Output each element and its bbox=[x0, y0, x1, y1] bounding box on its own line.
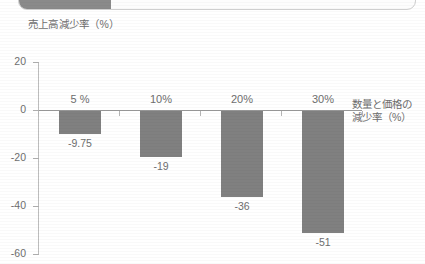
bar-value-label: -51 bbox=[282, 236, 364, 248]
bar-value-label: -36 bbox=[201, 200, 283, 212]
bar-chart: 売上高減少率（%） 数量と価格の 減少率（%） 200-20-40-60 5 %… bbox=[0, 0, 425, 264]
x-axis-tick-mark bbox=[281, 111, 282, 116]
y-axis-tick-mark bbox=[33, 158, 39, 159]
y-axis-title: 売上高減少率（%） bbox=[28, 16, 119, 31]
y-axis-tick-mark bbox=[33, 206, 39, 207]
x-axis-tick-mark bbox=[200, 111, 201, 116]
bar-value-label: -9.75 bbox=[39, 137, 121, 149]
x-axis-tick-mark bbox=[362, 111, 363, 116]
y-axis-tick-mark bbox=[33, 62, 39, 63]
bar-category-label: 20% bbox=[201, 93, 283, 105]
bar-category-label: 30% bbox=[282, 93, 364, 105]
bar bbox=[140, 111, 182, 157]
bar-category-label: 5 % bbox=[39, 93, 121, 105]
x-axis-tick-mark bbox=[38, 111, 39, 116]
y-axis-tick-label: -40 bbox=[11, 199, 26, 211]
x-axis-tick-mark bbox=[119, 111, 120, 116]
bar bbox=[221, 111, 263, 197]
bar-category-label: 10% bbox=[120, 93, 202, 105]
bar-value-label: -19 bbox=[120, 160, 202, 172]
bar bbox=[59, 111, 101, 134]
y-axis-tick-label: -60 bbox=[11, 247, 26, 259]
y-axis-tick-label: 0 bbox=[20, 103, 26, 115]
x-axis-title-line-2: 減少率（%） bbox=[352, 111, 412, 124]
y-axis-tick-mark bbox=[33, 254, 39, 255]
y-axis-tick-label: -20 bbox=[11, 151, 26, 163]
bar bbox=[302, 111, 344, 233]
y-axis-tick-label: 20 bbox=[14, 55, 26, 67]
